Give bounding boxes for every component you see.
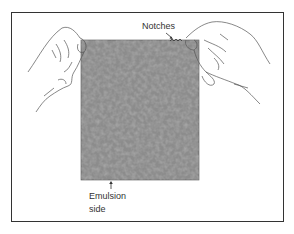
notches-arrow-icon [166,33,173,39]
emulsion-arrow-icon [109,181,113,189]
left-hand-illustration [28,27,86,112]
emulsion-label-line2: side [89,204,126,214]
film-sheet [81,40,199,180]
notches-label: Notches [142,21,175,31]
film-handling-illustration [0,0,294,234]
emulsion-label-line1: Emulsion [89,191,126,201]
emulsion-side-label: Emulsion side [89,191,126,214]
